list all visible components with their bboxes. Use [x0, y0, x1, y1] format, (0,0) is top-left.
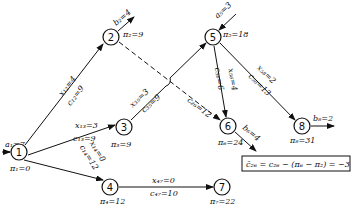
edge-flow-4-7: x₄₇=0: [152, 176, 175, 185]
edge-4-7: x₄₇=0 c₄₇=10: [119, 176, 213, 198]
node-label-6: 6: [225, 121, 231, 132]
node-potential-8: π₈=31: [289, 136, 315, 145]
edge-cost-2-6: c₂₆=12: [186, 96, 213, 120]
edge-flow-5-6: x₅₆=4: [226, 68, 239, 92]
demand-label-8: b₈=2: [313, 114, 333, 123]
supply-arrow-5: a₅=3: [213, 0, 236, 30]
demand-label-2: b₂=4: [111, 8, 132, 28]
node-label-7: 7: [219, 182, 225, 193]
reduced-cost-annotation: c̄₂₆ = c₂₆ − (π₆ − π₂) = −3: [242, 156, 350, 171]
demand-arrow-2: b₂=4: [111, 8, 134, 31]
node-4: 4 π₄=12: [99, 179, 125, 206]
node-1: 1 π₁=0: [9, 144, 30, 173]
node-label-1: 1: [16, 147, 22, 158]
demand-arrow-8: b₈=2: [311, 114, 334, 126]
node-8: 8 π₈=31: [289, 118, 315, 145]
node-6: 6 π₆=24: [217, 118, 243, 147]
edge-5-6: x₅₆=4 c₅₆=6: [213, 46, 239, 117]
node-potential-3: π₃=9: [110, 140, 131, 149]
node-potential-6: π₆=24: [217, 138, 243, 147]
supply-label-5: a₅=3: [213, 0, 234, 20]
node-potential-5: π₅=18: [222, 30, 248, 39]
node-2: 2 π₂=9: [103, 29, 143, 45]
node-potential-7: π₇=22: [209, 197, 235, 206]
node-label-4: 4: [107, 182, 113, 193]
node-5: 5 π₅=18: [205, 29, 248, 45]
node-label-5: 5: [210, 32, 216, 43]
node-7: 7 π₇=22: [209, 179, 235, 206]
edge-cost-5-6: c₅₆=6: [213, 67, 226, 91]
edge-flow-1-3: x₁₃=3: [75, 121, 98, 130]
node-label-8: 8: [299, 121, 305, 132]
node-label-2: 2: [108, 32, 114, 43]
node-label-3: 3: [121, 122, 127, 133]
reduced-cost-formula: c̄₂₆ = c₂₆ − (π₆ − π₂) = −3: [246, 160, 350, 169]
node-potential-1: π₁=0: [9, 164, 30, 173]
network-diagram: a₁=7 b₂=4 a₅=3 b₆=4 b₈=2 x₁₂=4 c₁₂=9 x₁₃…: [0, 0, 353, 209]
edge-1-4: x₁₄=0 c₁₄=12: [24, 139, 107, 180]
node-potential-4: π₄=12: [99, 197, 125, 206]
node-potential-2: π₂=9: [122, 30, 143, 39]
edge-cost-4-7: c₄₇=10: [150, 189, 178, 198]
node-3: 3 π₃=9: [110, 119, 132, 149]
